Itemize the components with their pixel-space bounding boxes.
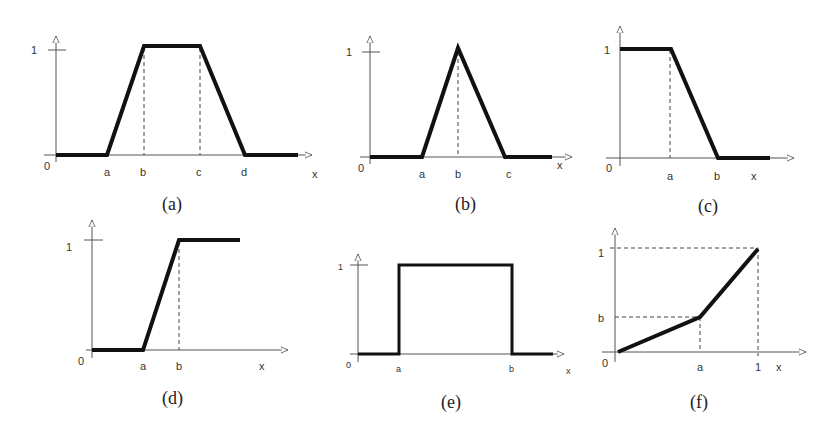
triangle-curve: [370, 48, 552, 157]
caption-c: (c): [698, 196, 718, 217]
label-b: b: [176, 360, 182, 372]
label-x: x: [566, 366, 571, 376]
label-a: a: [104, 166, 111, 178]
caption-f: (f): [690, 392, 708, 413]
panel-d-right-shoulder: 1 0 a b x (d): [66, 220, 288, 409]
caption-b: (b): [455, 194, 476, 215]
label-c: c: [506, 168, 512, 180]
piecewise-curve: [618, 249, 758, 352]
label-c: c: [196, 166, 202, 178]
panel-a-trapezoidal: 1 0 a b c d x (a): [31, 36, 318, 215]
label-b: b: [140, 166, 146, 178]
label-b: b: [598, 312, 604, 324]
caption-a: (a): [162, 194, 182, 215]
label-one-x: 1: [755, 361, 761, 373]
caption-e: (e): [441, 392, 461, 413]
label-b: b: [509, 364, 514, 374]
label-zero: 0: [346, 360, 351, 370]
label-a: a: [140, 360, 147, 372]
label-b: b: [455, 168, 461, 180]
label-one: 1: [338, 262, 343, 272]
left-shoulder-curve: [620, 49, 770, 158]
label-x: x: [557, 159, 563, 171]
label-d: d: [241, 166, 247, 178]
rectangle-curve: [358, 265, 553, 354]
label-x: x: [259, 360, 265, 372]
label-x: x: [312, 168, 318, 180]
label-one: 1: [31, 44, 37, 56]
label-a: a: [419, 168, 426, 180]
panel-f-piecewise-linear: 1 b 0 a 1 x (f): [598, 228, 806, 413]
panel-b-triangular: 1 0 a b c x (b): [346, 36, 572, 215]
label-a: a: [396, 364, 401, 374]
label-one: 1: [346, 46, 352, 58]
membership-functions-figure: 1 0 a b c d x (a) 1 0 a b c x (b) 1 0 a …: [0, 0, 834, 433]
label-a: a: [697, 361, 704, 373]
label-x: x: [776, 361, 782, 373]
label-zero: 0: [602, 357, 608, 369]
panel-c-left-shoulder: 1 0 a b x (c): [604, 26, 794, 217]
label-one: 1: [598, 247, 604, 259]
caption-d: (d): [162, 388, 183, 409]
panel-e-rectangular: 1 0 a b x (e): [338, 254, 571, 413]
label-zero: 0: [44, 160, 50, 172]
label-zero: 0: [358, 162, 364, 174]
label-one: 1: [66, 241, 72, 253]
label-zero: 0: [78, 355, 84, 367]
label-b: b: [714, 170, 720, 182]
label-zero: 0: [606, 162, 612, 174]
right-shoulder-curve: [92, 240, 240, 350]
label-a: a: [667, 170, 674, 182]
label-one: 1: [604, 44, 610, 56]
trapezoid-curve: [56, 46, 298, 155]
label-x: x: [751, 170, 757, 182]
